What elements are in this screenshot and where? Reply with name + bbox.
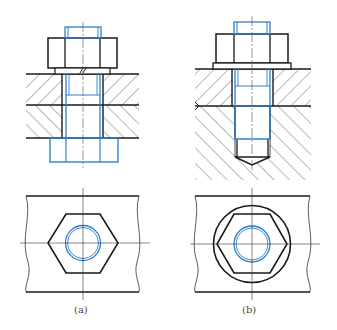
lower-plate-hatch-right (103, 105, 139, 138)
break-line-left (25, 196, 29, 292)
nut (48, 38, 117, 68)
caption-a: (a) (74, 304, 88, 315)
lower-plate-hatch-left (26, 105, 62, 138)
upper-plate-hatch-left (26, 74, 62, 105)
panel-b-plan (190, 188, 320, 300)
panel-b-section (195, 16, 311, 180)
bolt-head (50, 138, 118, 162)
bolt-joint-drawing (0, 0, 337, 330)
caption-b: (b) (242, 304, 256, 315)
break-line-right (136, 196, 140, 292)
upper-plate-hatch-right (103, 74, 139, 105)
panel-a-section (26, 22, 139, 168)
panel-a-plan (20, 188, 150, 300)
